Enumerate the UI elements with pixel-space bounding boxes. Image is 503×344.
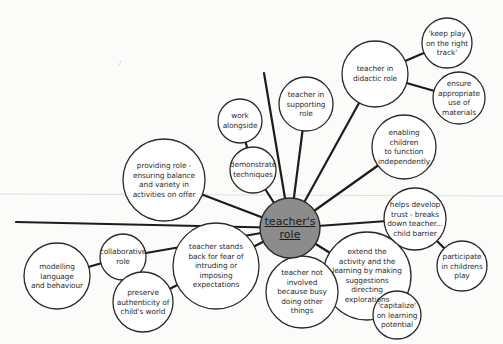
label-line: teacher stands	[188, 242, 243, 252]
node-label-teacher-stands-back: teacher standsback for fear ofintruding …	[188, 242, 243, 290]
label-line: suggestions	[332, 276, 402, 286]
label-line: doing other	[277, 297, 327, 307]
label-line: child barrier	[387, 229, 442, 239]
label-line: activity and the	[332, 257, 402, 267]
node-label-capitalize-on-learning: 'capitalize'on learningpotential	[377, 301, 418, 330]
label-line: track'	[426, 48, 468, 58]
label-line: participate	[441, 252, 482, 262]
label-line: work	[223, 111, 258, 121]
label-line: teacher in	[287, 90, 326, 100]
label-line: preserve	[117, 288, 169, 298]
label-line: expectations	[188, 280, 243, 290]
label-line: providing role -	[133, 161, 196, 171]
label-line: role	[265, 228, 316, 241]
label-line: child's world	[117, 307, 169, 317]
label-line: teacher in	[353, 64, 397, 74]
node-label-demonstrate-techniques: demonstratetechniques	[230, 160, 276, 179]
label-line: techniques	[230, 170, 276, 180]
label-line: helps develop	[387, 200, 442, 210]
label-line: modelling	[31, 262, 83, 272]
pencil-mark	[119, 60, 121, 66]
label-line: involved	[277, 278, 327, 288]
label-line: role	[100, 257, 147, 267]
label-line: teacher not	[277, 268, 327, 278]
node-label-helps-develop-trust: helps developtrust - breaksdown teacher.…	[387, 200, 442, 238]
label-line: alongside	[223, 121, 258, 131]
node-label-teacher-in-didactic-role: teacher indidactic role	[353, 64, 397, 83]
label-line: directing	[332, 286, 402, 296]
label-line: and variety in	[133, 180, 196, 190]
label-line: on the right	[426, 38, 468, 48]
spoke-left-line	[16, 222, 290, 228]
label-line: independently	[378, 157, 430, 167]
label-line: 'capitalize'	[377, 301, 418, 311]
label-line: on learning	[377, 310, 418, 320]
center-label-teachers-role: teacher'srole	[265, 215, 316, 241]
label-line: because busy	[277, 287, 327, 297]
node-label-keep-play-on-track: 'keep playon the righttrack'	[426, 29, 468, 58]
label-line: authenticity of	[117, 297, 169, 307]
label-line: materials	[438, 108, 480, 118]
label-line: play	[441, 271, 482, 281]
node-label-modelling-language: modellinglanguageand behaviour	[31, 262, 83, 291]
label-line: role	[287, 109, 326, 119]
node-label-teacher-not-involved: teacher notinvolvedbecause busydoing oth…	[277, 268, 327, 316]
node-label-participate-in-play: participatein childrensplay	[441, 252, 482, 281]
label-line: imposing	[188, 271, 243, 281]
label-line: ensure	[438, 79, 480, 89]
label-line: appropriate	[438, 88, 480, 98]
label-line: to function	[378, 147, 430, 157]
label-line: supporting	[287, 99, 326, 109]
node-label-work-alongside: workalongside	[223, 111, 258, 130]
node-label-collaborative-role: collaborativerole	[100, 247, 147, 266]
label-line: use of	[438, 98, 480, 108]
label-line: activities on offer	[133, 190, 196, 200]
node-label-preserve-authenticity: preserveauthenticity ofchild's world	[117, 288, 169, 317]
label-line: collaborative	[100, 247, 147, 257]
label-line: ensuring balance	[133, 170, 196, 180]
label-line: didactic role	[353, 74, 397, 84]
node-label-enabling-children: enablingchildrento functionindependently	[378, 128, 430, 166]
label-line: things	[277, 306, 327, 316]
label-line: trust - breaks	[387, 209, 442, 219]
label-line: enabling	[378, 128, 430, 138]
label-line: learning by making	[332, 266, 402, 276]
label-line: in childrens	[441, 261, 482, 271]
node-label-teacher-in-supporting-role: teacher insupportingrole	[287, 90, 326, 119]
label-line: intruding or	[188, 261, 243, 271]
label-line: children	[378, 137, 430, 147]
label-line: teacher's	[265, 215, 316, 228]
label-line: potential	[377, 320, 418, 330]
label-line: down teacher...	[387, 219, 442, 229]
label-line: and behaviour	[31, 281, 83, 291]
label-line: extend the	[332, 247, 402, 257]
label-line: demonstrate	[230, 160, 276, 170]
label-line: 'keep play	[426, 29, 468, 39]
node-label-extend-the-activity: extend theactivity and thelearning by ma…	[332, 247, 402, 305]
node-label-ensure-appropriate-use: ensureappropriateuse ofmaterials	[438, 79, 480, 117]
label-line: language	[31, 271, 83, 281]
label-line: back for fear of	[188, 252, 243, 262]
node-label-providing-role: providing role -ensuring balanceand vari…	[133, 161, 196, 199]
